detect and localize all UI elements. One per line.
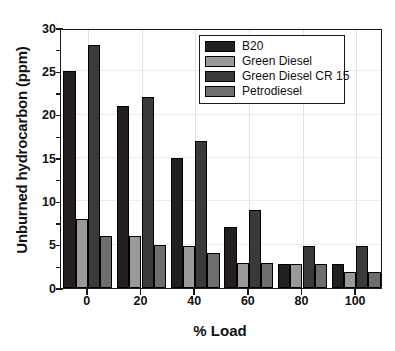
x-axis-tick-label: 20 [121, 294, 161, 308]
y-axis-tick-label: 20 [34, 109, 56, 122]
bar [303, 246, 315, 288]
bar [332, 264, 344, 288]
x-axis-tick-label: 100 [335, 294, 375, 308]
bar [237, 263, 249, 288]
bar [356, 246, 368, 288]
legend-swatch [205, 56, 235, 67]
gridline-horizontal [61, 114, 381, 115]
x-axis-title: % Load [60, 322, 380, 339]
bar [63, 71, 75, 288]
bar [249, 210, 261, 288]
gridline-horizontal [61, 157, 381, 158]
bar [278, 264, 290, 288]
y-axis-tick-label: 10 [34, 196, 56, 209]
legend-item: Green Diesel CR 15 [205, 69, 340, 83]
bar [344, 272, 356, 288]
bar [368, 272, 380, 288]
legend-item: B20 [205, 39, 340, 53]
bar [315, 264, 327, 288]
chart-figure: Unburned hydrocarbon (ppm) 051015202530 … [0, 0, 395, 351]
y-axis-tick-label: 25 [34, 66, 56, 79]
bar [76, 219, 88, 288]
y-axis-tick-label: 5 [34, 239, 56, 252]
bar [195, 141, 207, 288]
bar [88, 45, 100, 288]
legend-swatch [205, 41, 235, 52]
bar [183, 246, 195, 288]
bar [171, 158, 183, 288]
bar [224, 227, 236, 288]
y-axis-tick-label: 30 [34, 23, 56, 36]
y-axis-tick-label: 15 [34, 153, 56, 166]
legend-swatch [205, 86, 235, 97]
legend-item: Petrodiesel [205, 84, 340, 98]
gridline-horizontal [61, 200, 381, 201]
bar [129, 236, 141, 288]
bar [207, 253, 219, 288]
y-axis-tick-labels: 051015202530 [30, 29, 56, 289]
bar [117, 106, 129, 288]
legend-label: Petrodiesel [242, 85, 302, 97]
legend-label: Green Diesel [242, 55, 312, 67]
y-axis-tick-label: 0 [34, 283, 56, 296]
x-axis-tick-label: 60 [228, 294, 268, 308]
chart-legend: B20Green DieselGreen Diesel CR 15Petrodi… [199, 35, 345, 104]
bar [261, 263, 273, 288]
bar [154, 245, 166, 288]
legend-label: Green Diesel CR 15 [242, 70, 349, 82]
bar [142, 97, 154, 288]
bar [290, 264, 302, 288]
legend-item: Green Diesel [205, 54, 340, 68]
x-axis-tick-label: 80 [282, 294, 322, 308]
x-axis-tick-label: 0 [67, 294, 107, 308]
x-axis-tick-label: 40 [174, 294, 214, 308]
legend-swatch [205, 71, 235, 82]
bar [100, 236, 112, 288]
legend-label: B20 [242, 40, 263, 52]
